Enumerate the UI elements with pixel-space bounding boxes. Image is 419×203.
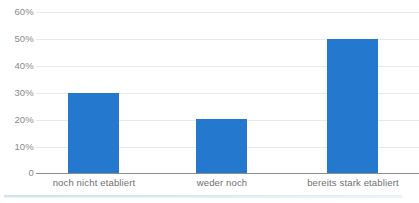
x-tick-label-weder-noch: weder noch (159, 176, 285, 190)
y-tick-label-50: 50% (0, 34, 34, 44)
bar-chart: 60% 50% 40% 30% 20% 10% 0 noch nicht eta… (0, 0, 419, 203)
bar-bereits-stark-etabliert[interactable] (327, 39, 378, 173)
y-tick-label-0: 0 (0, 168, 34, 178)
y-tick-label-20: 20% (0, 115, 34, 125)
bar-weder-noch[interactable] (196, 119, 247, 173)
y-tick-label-40: 40% (0, 61, 34, 71)
bar-noch-nicht-etabliert[interactable] (68, 93, 119, 174)
footer-divider-shadow (4, 197, 402, 198)
x-tick-label-noch-nicht-etabliert: noch nicht etabliert (31, 176, 157, 190)
y-tick-label-10: 10% (0, 142, 34, 152)
plot-area: 60% 50% 40% 30% 20% 10% 0 (36, 0, 419, 174)
x-axis-labels: noch nicht etabliert weder noch bereits … (36, 176, 419, 192)
x-tick-label-bereits-stark-etabliert: bereits stark etabliert (290, 176, 416, 190)
gridline-60 (36, 12, 419, 13)
x-axis-line (36, 173, 419, 174)
y-tick-label-60: 60% (0, 7, 34, 17)
y-tick-label-30: 30% (0, 88, 34, 98)
